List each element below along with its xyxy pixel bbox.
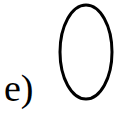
- ellipse-shape: [0, 0, 127, 115]
